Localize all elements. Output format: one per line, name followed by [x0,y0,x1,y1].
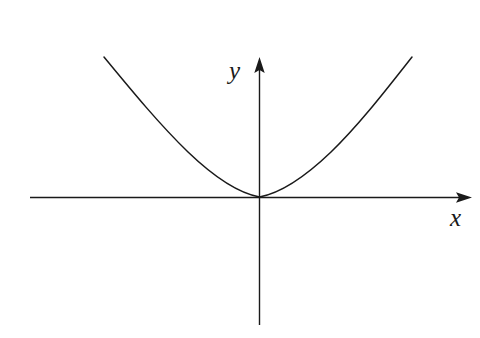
x-axis-label: x [450,205,461,230]
parabola-plot [0,0,480,338]
parabola-curve [104,57,412,197]
y-axis-label: y [229,58,240,83]
figure-canvas: y x [0,0,480,338]
